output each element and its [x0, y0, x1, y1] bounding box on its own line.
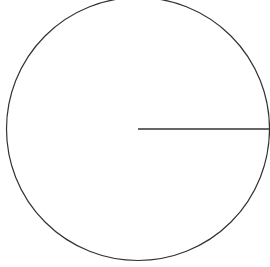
diagram-canvas [0, 0, 270, 267]
circle-shape [7, 0, 270, 261]
